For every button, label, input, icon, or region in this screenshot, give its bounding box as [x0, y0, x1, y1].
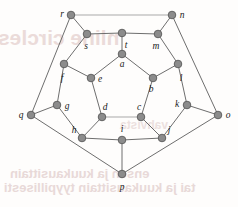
graph-node-label-m: m: [153, 41, 160, 51]
graph-edge-op: [122, 115, 218, 174]
graph-node-l[interactable]: [174, 60, 182, 68]
label-layer: abcdefghijklmnopqrst: [19, 9, 231, 192]
graph-figure: nline circles ensen ja kuukausittain tai…: [0, 0, 238, 207]
graph-node-j[interactable]: [158, 134, 166, 142]
graph-edge-lk: [178, 64, 187, 105]
graph-node-e[interactable]: [87, 74, 95, 82]
graph-node-t[interactable]: [118, 29, 126, 37]
graph-node-label-c: c: [137, 102, 142, 112]
graph-node-c[interactable]: [137, 113, 145, 121]
graph-node-label-h: h: [72, 125, 77, 135]
node-layer: [27, 11, 222, 178]
graph-node-s[interactable]: [83, 30, 91, 38]
graph-node-a[interactable]: [118, 50, 126, 58]
graph-edge-pq: [31, 115, 122, 174]
graph-edge-tm: [122, 33, 158, 34]
graph-node-m[interactable]: [154, 30, 162, 38]
graph-edge-dh: [82, 117, 102, 138]
graph-node-label-s: s: [84, 41, 88, 51]
graph-node-label-k: k: [175, 99, 180, 109]
graph-edge-ea: [91, 54, 122, 78]
graph-node-label-a: a: [120, 59, 125, 69]
graph-node-g[interactable]: [53, 101, 61, 109]
graph-node-label-e: e: [98, 74, 102, 84]
graph-node-label-n: n: [180, 10, 185, 20]
graph-node-label-g: g: [65, 101, 70, 111]
graph-node-h[interactable]: [78, 134, 86, 142]
graph-node-i[interactable]: [118, 136, 126, 144]
graph-node-k[interactable]: [183, 101, 191, 109]
graph-edge-ji: [122, 138, 162, 140]
graph-edge-st: [87, 33, 122, 34]
graph-edge-gf: [57, 64, 64, 105]
graph-edge-kj: [162, 105, 187, 138]
graph-node-label-d: d: [103, 102, 108, 112]
graph-node-label-p: p: [119, 182, 125, 192]
graph-node-label-r: r: [60, 9, 64, 19]
graph-edge-ko: [187, 105, 218, 115]
graph-node-b[interactable]: [149, 74, 157, 82]
graph-node-p[interactable]: [118, 170, 126, 178]
graph-node-label-b: b: [149, 84, 154, 94]
graph-node-label-q: q: [19, 110, 24, 120]
graph-node-f[interactable]: [60, 60, 68, 68]
graph-node-label-i: i: [121, 124, 124, 134]
graph-node-n[interactable]: [168, 11, 176, 19]
graph-node-q[interactable]: [27, 111, 35, 119]
graph-node-label-f: f: [61, 73, 65, 83]
graph-node-label-o: o: [226, 110, 231, 120]
graph-node-label-j: j: [166, 125, 171, 135]
graph-edge-cj: [141, 117, 162, 138]
graph-edge-ml: [158, 34, 178, 64]
graph-edge-ab: [122, 54, 153, 78]
graph-node-o[interactable]: [214, 111, 222, 119]
dodecahedral-graph-drawing: abcdefghijklmnopqrst: [0, 0, 238, 207]
edge-layer: [31, 15, 218, 174]
graph-edge-ef: [64, 64, 91, 78]
graph-node-d[interactable]: [98, 113, 106, 121]
graph-node-label-l: l: [180, 73, 183, 83]
graph-edge-hg: [57, 105, 82, 138]
graph-node-label-t: t: [125, 40, 128, 50]
graph-edge-ih: [82, 138, 122, 140]
graph-node-r[interactable]: [67, 11, 75, 19]
graph-edge-bl: [153, 64, 178, 78]
